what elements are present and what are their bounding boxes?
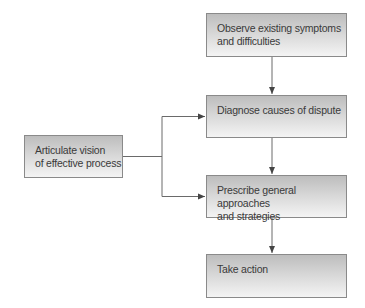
node-label-line: Observe existing symptoms <box>217 22 346 35</box>
node-label-line: Articulate vision <box>35 144 122 157</box>
node-label-line: and strategies <box>217 210 346 223</box>
node-label-line: Take action <box>217 263 346 276</box>
node-label-line: of effective process <box>35 157 122 170</box>
node-observe-symptoms: Observe existing symptoms and difficulti… <box>206 13 347 57</box>
node-articulate-vision: Articulate vision of effective process <box>24 135 123 178</box>
node-take-action: Take action <box>206 254 347 298</box>
node-label-line: Diagnose causes of dispute <box>217 104 346 117</box>
node-label-line: Prescribe general approaches <box>217 184 346 210</box>
node-diagnose-causes: Diagnose causes of dispute <box>206 95 347 138</box>
node-prescribe-approaches: Prescribe general approaches and strateg… <box>206 175 347 218</box>
node-label-line: and difficulties <box>217 35 346 48</box>
